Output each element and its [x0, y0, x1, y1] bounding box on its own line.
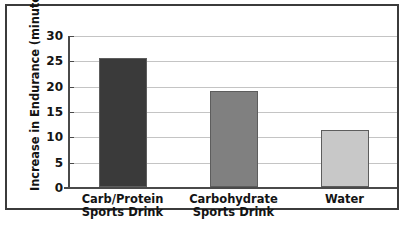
bar — [210, 91, 258, 187]
y-tick-label: 20 — [46, 80, 63, 94]
y-axis-line — [68, 36, 70, 188]
chart-frame: Increase in Endurance (minutes) 05101520… — [5, 4, 399, 210]
bar — [99, 58, 147, 187]
x-axis-label: Carb/ProteinSports Drink — [67, 193, 178, 219]
y-tick-label: 15 — [46, 105, 63, 119]
y-tick-label: 0 — [55, 181, 63, 195]
y-tick-label: 10 — [46, 130, 63, 144]
y-axis-title: Increase in Endurance (minutes) — [28, 23, 42, 191]
bar — [321, 130, 369, 187]
y-tick-label: 5 — [55, 156, 63, 170]
x-axis-label-line: Sports Drink — [178, 206, 289, 219]
x-axis-line — [64, 187, 397, 189]
plot-area: 051015202530 Carb/ProteinSports DrinkCar… — [64, 32, 397, 191]
gridline — [69, 36, 397, 37]
bar-chart-figure: Increase in Endurance (minutes) 05101520… — [0, 0, 407, 232]
x-axis-label: CarbohydrateSports Drink — [178, 193, 289, 219]
y-tick-label: 30 — [46, 29, 63, 43]
y-tick-label: 25 — [46, 54, 63, 68]
x-axis-label: Water — [289, 193, 400, 206]
x-axis-label-line: Water — [289, 193, 400, 206]
x-axis-label-line: Sports Drink — [67, 206, 178, 219]
